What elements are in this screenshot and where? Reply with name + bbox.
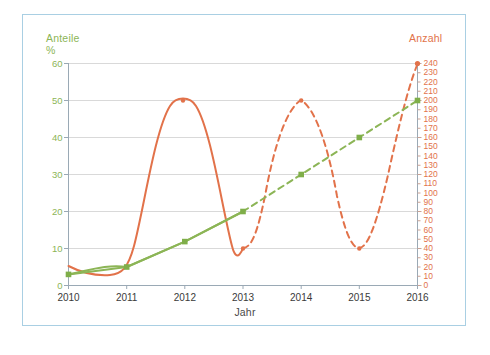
right-axis-tick-100: 100: [424, 189, 448, 199]
left-axis-tick-40: 40: [41, 133, 63, 143]
right-axis-tick-20: 20: [424, 263, 448, 273]
right-axis-tick-120: 120: [424, 170, 448, 180]
left-axis-tick-20: 20: [41, 207, 63, 217]
x-axis-tick-2016: 2016: [398, 293, 438, 303]
right-axis-tick-200: 200: [424, 96, 448, 106]
right-axis-tick-170: 170: [424, 124, 448, 134]
left-axis-tick-30: 30: [41, 170, 63, 180]
x-axis-tick-2013: 2013: [223, 293, 263, 303]
x-axis-tick-2012: 2012: [165, 293, 205, 303]
right-axis-tick-140: 140: [424, 152, 448, 162]
right-axis-tick-30: 30: [424, 253, 448, 263]
right-axis-tick-190: 190: [424, 105, 448, 115]
left-axis-tick-0: 0: [41, 281, 63, 291]
right-axis-title: Anzahl: [409, 32, 442, 44]
right-axis-tick-60: 60: [424, 226, 448, 236]
right-axis-tick-150: 150: [424, 142, 448, 152]
x-axis-ticks: [69, 286, 418, 290]
series-anzahl-forecast: [243, 64, 418, 248]
right-axis-tick-0: 0: [424, 281, 448, 291]
left-axis-tick-50: 50: [41, 96, 63, 106]
right-axis-tick-220: 220: [424, 78, 448, 88]
series-anteile-solid: [69, 212, 244, 275]
right-axis-tick-10: 10: [424, 272, 448, 282]
right-axis-tick-160: 160: [424, 133, 448, 143]
right-axis-tick-210: 210: [424, 87, 448, 97]
right-axis-tick-70: 70: [424, 216, 448, 226]
left-axis-tick-10: 10: [41, 244, 63, 254]
series-anteile-solid-seg: [69, 212, 244, 275]
right-axis-tick-130: 130: [424, 161, 448, 171]
right-axis-tick-180: 180: [424, 115, 448, 125]
x-axis-tick-2011: 2011: [107, 293, 147, 303]
right-axis-tick-50: 50: [424, 235, 448, 245]
right-axis-tick-90: 90: [424, 198, 448, 208]
left-axis-title: Anteile%: [46, 32, 80, 56]
right-axis-ticks: [418, 64, 422, 286]
x-axis-tick-2010: 2010: [49, 293, 89, 303]
gridlines: [69, 64, 418, 249]
left-axis-ticks: [64, 64, 69, 286]
x-axis-tick-2014: 2014: [281, 293, 321, 303]
right-axis-tick-230: 230: [424, 68, 448, 78]
right-axis-tick-80: 80: [424, 207, 448, 217]
right-axis-tick-110: 110: [424, 179, 448, 189]
x-axis-tick-2015: 2015: [339, 293, 379, 303]
x-axis-title: Jahr: [0, 306, 490, 318]
left-axis-tick-60: 60: [41, 59, 63, 69]
right-axis-tick-240: 240: [424, 59, 448, 69]
series-anzahl-markers: [181, 61, 420, 251]
right-axis-tick-40: 40: [424, 244, 448, 254]
